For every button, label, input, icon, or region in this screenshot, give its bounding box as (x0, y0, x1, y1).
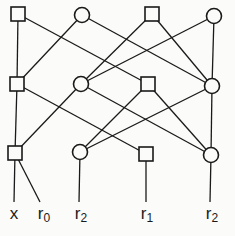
circle-node-n2 (75, 8, 90, 23)
circle-node-n4 (207, 9, 222, 24)
edge-n8-n12 (211, 86, 212, 155)
label-r1: r1 (141, 205, 153, 224)
nodes (8, 7, 222, 163)
edge-n5-n11 (17, 84, 146, 154)
label-x: x (10, 205, 19, 224)
square-node-n3 (145, 7, 159, 21)
square-node-n5 (10, 77, 24, 91)
square-node-n11 (139, 147, 153, 161)
edge-n7-n10 (80, 84, 148, 152)
label-r0: r0 (38, 205, 50, 224)
circle-node-n8 (205, 79, 220, 94)
square-node-n7 (141, 77, 155, 91)
edge-n5-n9 (15, 84, 17, 153)
circle-node-n6 (74, 77, 89, 92)
edge-n7-n12 (148, 84, 211, 155)
label-r2-right: r2 (206, 205, 218, 224)
edge-n4-n8 (212, 16, 214, 86)
square-node-n1 (11, 7, 25, 21)
edge-n2-n5 (17, 15, 82, 84)
edge-n1-n5 (17, 14, 18, 84)
edge-n6-n9 (15, 84, 81, 153)
circle-node-n10 (73, 145, 88, 160)
edges (14, 14, 214, 202)
square-node-n9 (8, 146, 22, 160)
edge-n3-n6 (81, 14, 152, 84)
circle-node-n12 (204, 148, 219, 163)
edge-n3-n8 (152, 14, 212, 86)
edge-n4-n6 (81, 16, 214, 84)
edge-n1-n7 (18, 14, 148, 84)
network-diagram (0, 0, 235, 236)
label-r2-left: r2 (75, 205, 87, 224)
edge-n8-n10 (80, 86, 212, 152)
